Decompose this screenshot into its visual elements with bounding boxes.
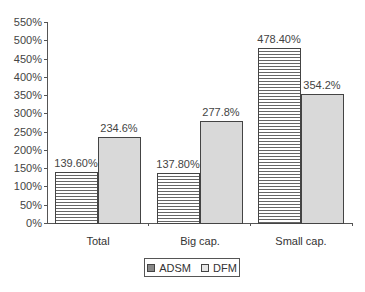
y-axis [47,22,48,224]
y-tick [44,59,47,60]
y-tick-label: 350% [4,89,42,101]
adsm-swatch-icon [147,264,155,272]
bar-dfm-0 [98,137,141,224]
y-tick-label: 400% [4,71,42,83]
y-tick-label: 550% [4,16,42,28]
value-label: 478.40% [249,33,309,45]
category-label: Total [53,235,143,247]
category-label: Big cap. [155,235,245,247]
y-tick [44,77,47,78]
value-label: 354.2% [292,79,352,91]
y-tick-label: 100% [4,180,42,192]
y-tick [44,223,47,224]
legend-item-dfm: DFM [201,262,237,274]
y-tick-label: 150% [4,162,42,174]
bar-dfm-1 [200,121,243,224]
category-label: Small cap. [256,235,346,247]
y-tick [44,40,47,41]
bar-adsm-1 [157,173,200,224]
y-tick-label: 50% [4,199,42,211]
bar-adsm-2 [258,48,301,224]
y-tick [44,113,47,114]
legend-label: ADSM [159,262,191,274]
x-tick [250,223,251,226]
y-tick [44,132,47,133]
y-tick [44,150,47,151]
legend: ADSM DFM [144,258,240,277]
y-tick-label: 450% [4,53,42,65]
x-tick [148,223,149,226]
bar-chart: ADSM DFM 0%50%100%150%200%250%300%350%40… [0,0,365,292]
value-label: 137.80% [148,158,208,170]
value-label: 139.60% [46,157,106,169]
y-tick-label: 500% [4,34,42,46]
y-tick [44,205,47,206]
y-tick [44,95,47,96]
y-tick [44,22,47,23]
y-tick-label: 300% [4,107,42,119]
value-label: 234.6% [89,122,149,134]
y-tick [44,186,47,187]
bar-adsm-0 [55,172,98,224]
y-tick-label: 200% [4,144,42,156]
y-tick-label: 0% [4,217,42,229]
legend-label: DFM [213,262,237,274]
legend-item-adsm: ADSM [147,262,191,274]
y-tick-label: 250% [4,126,42,138]
x-tick [352,223,353,226]
bar-dfm-2 [301,94,344,224]
value-label: 277.8% [191,106,251,118]
dfm-swatch-icon [201,264,209,272]
